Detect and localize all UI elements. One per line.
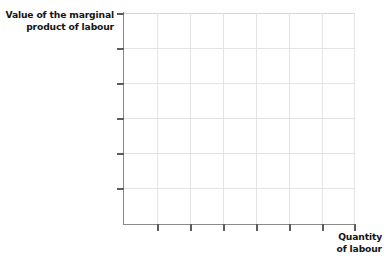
grid-top-border bbox=[124, 13, 355, 14]
y-axis-tick bbox=[117, 48, 124, 50]
y-axis-tick bbox=[117, 83, 124, 85]
y-axis-tick bbox=[117, 13, 124, 15]
x-axis-tick bbox=[223, 224, 225, 231]
y-axis-label-line-1: Value of the marginal bbox=[0, 9, 114, 21]
x-axis-tick bbox=[190, 224, 192, 231]
chart-figure: Value of the marginal product of labour … bbox=[0, 0, 390, 268]
gridline-horizontal bbox=[124, 48, 355, 49]
gridline-vertical bbox=[256, 13, 257, 224]
gridline-horizontal bbox=[124, 153, 355, 154]
x-axis-tick bbox=[256, 224, 258, 231]
x-axis-label: Quantity of labour bbox=[262, 231, 382, 255]
x-axis-tick bbox=[322, 224, 324, 231]
gridline-vertical bbox=[354, 13, 355, 224]
gridline-horizontal bbox=[124, 83, 355, 84]
gridline-horizontal bbox=[124, 118, 355, 119]
x-axis-label-line-1: Quantity bbox=[262, 231, 382, 243]
y-axis-tick bbox=[117, 118, 124, 120]
gridline-vertical bbox=[223, 13, 224, 224]
x-axis-tick bbox=[354, 224, 356, 231]
gridline-vertical bbox=[190, 13, 191, 224]
gridline-vertical bbox=[157, 13, 158, 224]
y-axis-tick bbox=[117, 188, 124, 190]
plot-area bbox=[124, 13, 355, 224]
gridline-horizontal bbox=[124, 188, 355, 189]
y-axis-label: Value of the marginal product of labour bbox=[0, 9, 114, 33]
y-axis-tick bbox=[117, 153, 124, 155]
x-axis-tick bbox=[289, 224, 291, 231]
y-axis-label-line-2: product of labour bbox=[0, 21, 114, 33]
gridline-vertical bbox=[322, 13, 323, 224]
x-axis-tick bbox=[157, 224, 159, 231]
gridline-vertical bbox=[289, 13, 290, 224]
x-axis-label-line-2: of labour bbox=[262, 243, 382, 255]
